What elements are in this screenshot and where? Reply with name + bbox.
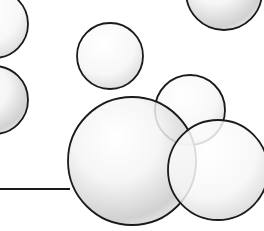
bubble-top-right (186, 0, 262, 30)
bubble-top-left (0, 0, 28, 58)
bubbles-illustration (0, 0, 264, 231)
bubble-bottom-right (168, 120, 264, 220)
bubble-small-center (77, 23, 143, 89)
bubble-mid-left (0, 66, 28, 134)
